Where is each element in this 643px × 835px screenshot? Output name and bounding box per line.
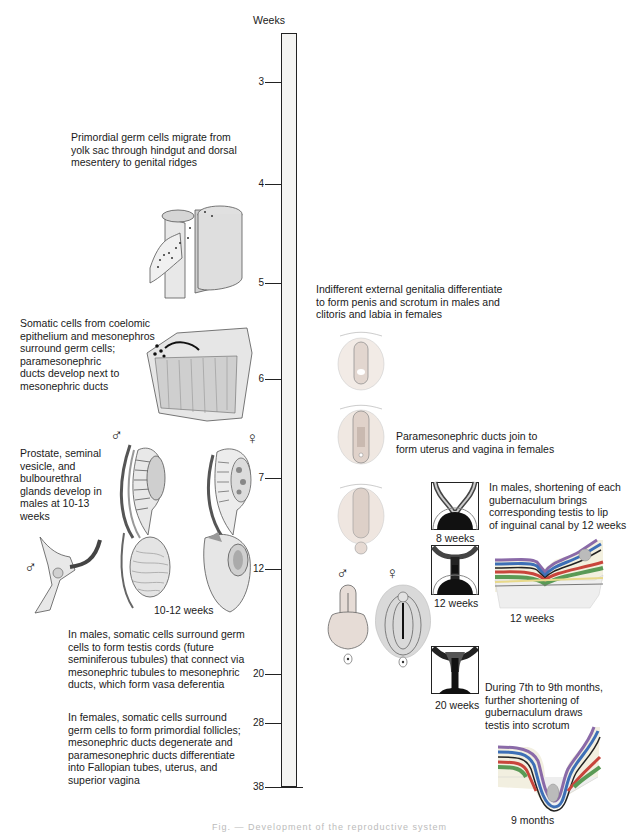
tick-7 xyxy=(265,478,281,479)
label-20-weeks: 20 weeks xyxy=(435,699,479,711)
axis-title-weeks: Weeks xyxy=(253,14,285,26)
tick-5 xyxy=(265,283,281,284)
tick-4 xyxy=(265,184,281,185)
label-9-months: 9 months xyxy=(511,814,554,826)
hindgut-illustration xyxy=(150,198,260,303)
annotation-somatic-cells: Somatic cells from coelomic epithelium a… xyxy=(20,317,155,393)
annotation-primordial-germ-cells: Primordial germ cells migrate from yolk … xyxy=(71,131,237,169)
inguinal-box-8-weeks xyxy=(431,482,479,530)
tick-label-3: 3 xyxy=(242,76,264,87)
tick-label-4: 4 xyxy=(242,178,264,189)
tick-label-38: 38 xyxy=(242,781,264,792)
timeline-bar xyxy=(281,33,297,787)
external-genitalia-stage2 xyxy=(336,405,386,467)
annotation-gubernaculum-12-weeks: In males, shortening of each gubernaculu… xyxy=(489,481,626,531)
female-duct-illustration xyxy=(205,440,255,540)
tick-28 xyxy=(265,723,281,724)
annotation-females-follicles: In females, somatic cells surround germ … xyxy=(68,711,241,787)
annotation-gubernaculum-9-months: During 7th to 9th months, further shorte… xyxy=(485,681,603,731)
prostate-illustration xyxy=(30,535,105,615)
external-genitalia-indifferent xyxy=(336,332,386,392)
inguinal-box-20-weeks xyxy=(431,646,479,694)
inguinal-section-12-weeks xyxy=(495,540,605,610)
tick-label-20: 20 xyxy=(242,668,264,679)
tick-12 xyxy=(265,569,281,570)
tick-38 xyxy=(265,787,303,788)
annotation-prostate: Prostate, seminal vesicle, and bulbouret… xyxy=(20,447,102,523)
annotation-males-testis-cords: In males, somatic cells surround germ ce… xyxy=(68,628,245,691)
male-symbol-icon: ♂ xyxy=(336,565,349,582)
tick-20 xyxy=(265,674,281,675)
inguinal-section-9-months xyxy=(498,727,600,812)
ovary-illustration xyxy=(200,530,255,615)
male-external-genitalia xyxy=(326,585,372,665)
testis-illustration xyxy=(118,533,173,608)
female-external-genitalia xyxy=(373,583,433,668)
label-8-weeks: 8 weeks xyxy=(436,532,475,544)
label-12-weeks-section: 12 weeks xyxy=(510,612,554,624)
annotation-paramesonephric-join: Paramesonephric ducts join to form uteru… xyxy=(396,430,554,455)
mesonephros-illustration xyxy=(147,328,252,423)
tick-6 xyxy=(265,379,281,380)
figure-caption: Fig. — Development of the reproductive s… xyxy=(212,822,447,832)
male-duct-illustration xyxy=(118,440,168,540)
annotation-external-genitalia: Indifferent external genitalia different… xyxy=(316,283,502,321)
inguinal-box-12-weeks xyxy=(431,545,479,595)
tick-label-28: 28 xyxy=(242,717,264,728)
external-genitalia-stage3 xyxy=(336,484,386,556)
label-12-weeks-box: 12 weeks xyxy=(434,597,478,609)
female-symbol-icon: ♀ xyxy=(386,565,399,582)
tick-3 xyxy=(265,82,281,83)
